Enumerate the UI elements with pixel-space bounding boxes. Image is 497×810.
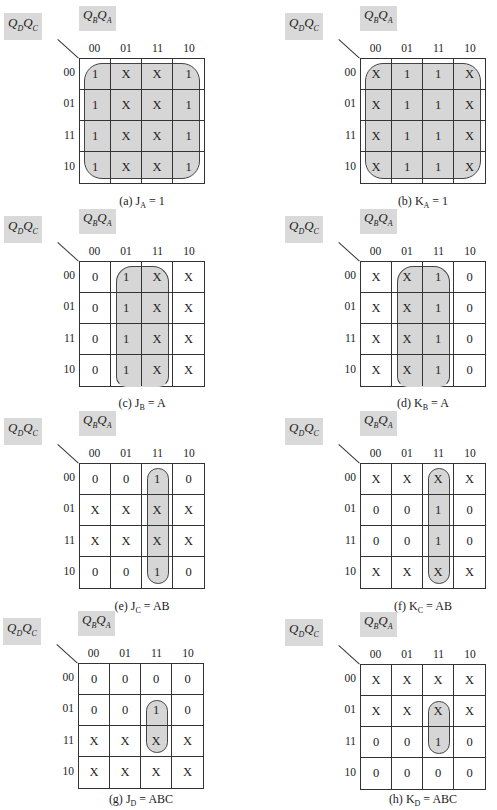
kmap-cell: X — [392, 324, 423, 355]
row-variable-label: QDQC — [285, 13, 323, 40]
kmap-cell: 0 — [80, 355, 111, 386]
row-header: 10 — [336, 160, 356, 172]
header-divider-line — [338, 645, 360, 665]
caption-subscript: C — [135, 606, 140, 615]
caption-label: (e) — [114, 599, 127, 613]
kmap-cell: X — [142, 355, 173, 386]
kmap-cell: 0 — [392, 526, 423, 557]
kmap-caption: (h) KD = ABC — [360, 792, 486, 808]
caption-subscript: D — [131, 799, 137, 808]
kmap-cell: 1 — [423, 495, 454, 526]
kmap-cell: 0 — [361, 526, 392, 557]
kmap-cell: X — [361, 324, 392, 355]
kmap-cell: 1 — [423, 355, 454, 386]
kmap-cell: X — [142, 262, 173, 293]
column-header: 00 — [360, 447, 391, 459]
row-header: 11 — [55, 534, 75, 546]
kmap-cell: 1 — [423, 526, 454, 557]
kmap-grid: 01XX01XX01XX01XX — [79, 261, 205, 387]
caption-label: (c) — [118, 396, 131, 410]
row-header: 11 — [336, 129, 356, 141]
column-variable-label: QBQA — [79, 411, 116, 436]
kmap-cell: 0 — [454, 727, 485, 758]
row-header: 01 — [55, 97, 75, 109]
kmap-grid: X11XX11XX11XX11X — [360, 58, 486, 184]
kmap-cell: 1 — [173, 59, 204, 90]
column-header: 10 — [174, 245, 205, 257]
kmap-cell: X — [110, 757, 141, 788]
column-variable-label: QBQA — [78, 611, 115, 636]
column-header: 01 — [111, 42, 142, 54]
header-divider-line — [338, 242, 360, 262]
row-header: 00 — [55, 471, 75, 483]
kmap-cell: X — [172, 757, 203, 788]
column-header: 11 — [142, 245, 173, 257]
kmap-cell: 1 — [423, 90, 454, 121]
kmap-cell: 0 — [392, 495, 423, 526]
column-header: 00 — [78, 647, 109, 659]
kmap-cell: 1 — [423, 727, 454, 758]
kmap-cell: X — [173, 495, 204, 526]
kmap-cell: 0 — [454, 495, 485, 526]
kmap-cell: X — [141, 757, 172, 788]
row-header: 00 — [336, 471, 356, 483]
kmap-cell: X — [173, 324, 204, 355]
kmap-cell: 0 — [111, 557, 142, 588]
column-header: 01 — [392, 245, 423, 257]
column-header: 10 — [455, 245, 486, 257]
row-header: 10 — [55, 363, 75, 375]
column-header: 10 — [455, 447, 486, 459]
header-divider-line — [57, 39, 79, 59]
caption-expression: = 1 — [432, 194, 448, 208]
column-header: 11 — [423, 42, 454, 54]
kmap-cell: X — [111, 90, 142, 121]
kmap-grid: XXXX00100010XXXX — [360, 463, 486, 589]
row-header: 00 — [54, 671, 74, 683]
row-header: 01 — [55, 300, 75, 312]
kmap-cell: 1 — [423, 152, 454, 183]
header-divider-line — [56, 644, 78, 664]
kmap-cell: 1 — [392, 59, 423, 90]
column-header: 11 — [142, 42, 173, 54]
kmap-cell: 1 — [392, 152, 423, 183]
caption-label: (a) — [119, 194, 132, 208]
caption-expression: = ABC — [423, 792, 457, 806]
row-header: 01 — [54, 702, 74, 714]
kmap-cell: 1 — [142, 557, 173, 588]
column-header: 00 — [360, 42, 391, 54]
kmap-cell: 1 — [141, 695, 172, 726]
kmap-grid: 1XX11XX11XX11XX1 — [79, 58, 205, 184]
row-variable-label: QDQC — [285, 418, 323, 445]
row-header: 10 — [336, 363, 356, 375]
kmap-cell: 0 — [173, 557, 204, 588]
column-header: 01 — [392, 42, 423, 54]
row-header: 01 — [336, 97, 356, 109]
row-header: 00 — [55, 269, 75, 281]
kmap-cell: 1 — [392, 121, 423, 152]
kmap-cell: 0 — [80, 464, 111, 495]
caption-subscript: C — [418, 606, 423, 615]
row-header: 00 — [336, 269, 356, 281]
kmap-cell: X — [361, 557, 392, 588]
caption-expression: = AB — [144, 599, 170, 613]
row-header: 00 — [55, 66, 75, 78]
caption-function: K — [414, 396, 423, 410]
row-header: 10 — [336, 565, 356, 577]
row-variable-label: QDQC — [4, 13, 42, 40]
kmap-cell: 1 — [111, 324, 142, 355]
kmap-cell: 0 — [361, 758, 392, 789]
kmap-cell: 1 — [80, 90, 111, 121]
kmap-cell: 1 — [111, 355, 142, 386]
kmap-grid: 0010XXXXXXXX0010 — [79, 463, 205, 589]
row-header: 01 — [336, 703, 356, 715]
row-header: 10 — [54, 765, 74, 777]
kmap-cell: 0 — [110, 695, 141, 726]
kmap-cell: X — [142, 121, 173, 152]
kmap-cell: X — [111, 526, 142, 557]
kmap-cell: X — [454, 121, 485, 152]
row-variable-label: QDQC — [4, 216, 42, 243]
caption-label: (h) — [389, 792, 403, 806]
kmap-cell: 0 — [454, 758, 485, 789]
kmap-cell: X — [423, 696, 454, 727]
kmap-cell: 0 — [173, 464, 204, 495]
